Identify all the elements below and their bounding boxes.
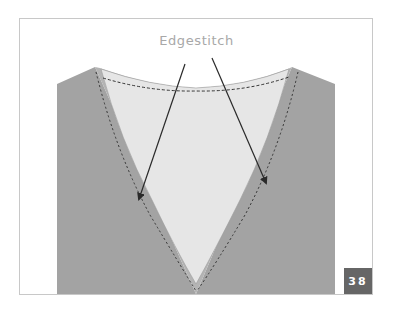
- edgestitch-label: Edgestitch: [0, 33, 393, 48]
- page-number-badge: 38: [344, 268, 372, 294]
